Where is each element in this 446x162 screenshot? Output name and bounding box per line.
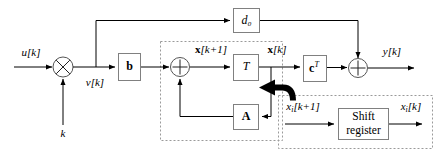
- v-signal-label: v[k]: [86, 76, 104, 88]
- state-next-label: x[k+1]: [195, 43, 227, 55]
- state-update-group-box: [161, 42, 283, 141]
- shift-register-label-line2: register: [346, 124, 381, 137]
- diagram-canvas: d₀ u[k] k v[k] b x[k+1] T x[k]: [0, 0, 446, 162]
- state-matrix-block-label: A: [242, 109, 251, 123]
- input-signal-label: u[k]: [22, 46, 41, 58]
- output-signal-label: y[k]: [382, 45, 401, 57]
- thick-curved-left-arrow-icon: [259, 80, 296, 101]
- block-diagram: d₀ u[k] k v[k] b x[k+1] T x[k]: [0, 0, 446, 162]
- shift-register-input-label: xi[k+1]: [285, 100, 320, 114]
- shift-register-output-label: xi[k]: [400, 100, 422, 114]
- gain-k-label: k: [61, 127, 67, 139]
- state-now-label: x[k]: [268, 43, 287, 55]
- input-gain-block-label: b: [126, 59, 133, 73]
- feedthrough-block-label: d₀: [241, 13, 251, 27]
- shift-register-label-line1: Shift: [352, 110, 375, 122]
- wire-A-to-state-sum: [180, 79, 233, 117]
